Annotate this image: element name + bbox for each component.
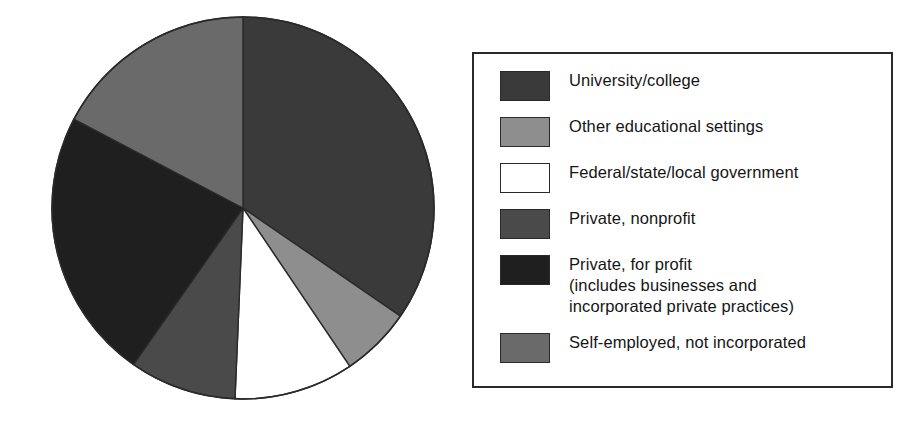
legend-box: University/collegeOther educational sett… — [472, 52, 893, 388]
legend-swatch — [500, 71, 550, 101]
legend-item: Private, for profit (includes businesses… — [500, 254, 881, 317]
legend-label: Private, nonprofit — [569, 208, 696, 229]
legend-label: Other educational settings — [569, 116, 763, 137]
legend-items: University/collegeOther educational sett… — [500, 70, 881, 363]
pie-chart-figure: University/collegeOther educational sett… — [0, 0, 911, 430]
legend-label: Private, for profit (includes businesses… — [569, 254, 794, 317]
legend-item: Federal/state/local government — [500, 162, 881, 193]
pie-svg — [48, 12, 440, 412]
legend-swatch — [500, 255, 550, 285]
legend-swatch — [500, 209, 550, 239]
pie-slices — [52, 17, 434, 399]
pie-chart-area — [48, 12, 440, 412]
legend-item: Other educational settings — [500, 116, 881, 147]
legend-label: Federal/state/local government — [569, 162, 799, 183]
legend-item: University/college — [500, 70, 881, 101]
legend-label: University/college — [569, 70, 700, 91]
legend-swatch — [500, 117, 550, 147]
legend-swatch — [500, 333, 550, 363]
legend-item: Self-employed, not incorporated — [500, 332, 881, 363]
legend-swatch — [500, 163, 550, 193]
legend-item: Private, nonprofit — [500, 208, 881, 239]
legend-label: Self-employed, not incorporated — [569, 332, 806, 353]
